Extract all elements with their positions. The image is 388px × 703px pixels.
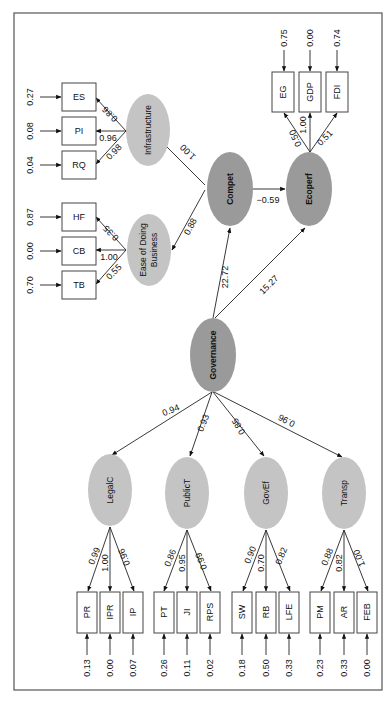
latent-compet: Compet: [207, 152, 253, 226]
latent-label: Compet: [225, 173, 235, 205]
indicator-group-ecoperf: 0.50 1.00 0.51 EG GDP FDI 0.75 0.00 0.74: [272, 29, 348, 152]
indicator-label: CB: [73, 246, 86, 256]
latent-ecoperf: Ecoperf: [286, 152, 332, 226]
coef-compet-ecoperf: −0.59: [257, 195, 280, 205]
coef-gov-transp: 0.96: [277, 412, 297, 429]
latent-label: LegalC: [105, 477, 115, 504]
loading-TB: 0.55: [104, 262, 123, 281]
coef-gov-legalc: 0.94: [161, 402, 181, 418]
loading-RB: 0.70: [256, 554, 266, 572]
loading-JI: 0.95: [177, 554, 187, 572]
loading-IP: 0.96: [116, 547, 132, 567]
latent-publict: PublicT: [165, 457, 209, 529]
indicator-group-legalc: 0.99 1.00 0.96 PR IPR IP 0.13 0.00 0.07: [77, 527, 143, 677]
error-RQ: 0.04: [25, 156, 35, 174]
loading-PI: 0.96: [99, 133, 117, 143]
error-AR: 0.33: [339, 659, 349, 677]
indicator-group-transp: 0.88 0.82 1.00 PM AR FEB 0.23 0.33 0.00: [310, 530, 377, 677]
error-RB: 0.50: [261, 659, 271, 677]
loading-PM: 0.88: [319, 547, 335, 567]
latent-infrastructure: Infrastructure: [126, 94, 170, 166]
error-GDP: 0.00: [305, 29, 315, 47]
coef-gov-compet: 22.72: [220, 266, 230, 289]
error-IP: 0.07: [128, 659, 138, 677]
sem-path-diagram: Governance Compet Ecoperf Infrastructure…: [0, 0, 388, 703]
latent-label-line2: Business: [149, 233, 159, 268]
loading-IPR: 1.00: [100, 554, 110, 572]
error-FEB: 0.00: [362, 659, 372, 677]
loading-LFE: 0.82: [273, 546, 289, 566]
error-PM: 0.23: [315, 659, 325, 677]
latent-label: GovEf: [261, 481, 271, 505]
error-JI: 0.11: [182, 660, 192, 677]
error-FDI: 0.74: [332, 29, 342, 47]
indicator-label: RB: [261, 606, 271, 619]
indicator-label: IP: [128, 608, 138, 617]
latent-label: Ecoperf: [304, 173, 314, 205]
latent-label: PublicT: [182, 479, 192, 507]
indicator-group-infrastructure: 0.86 0.96 0.98 ES PI RQ 0.27 0.08 0.04: [25, 83, 126, 179]
latent-legalc: LegalC: [88, 454, 132, 526]
loading-CB: 1.00: [100, 252, 118, 262]
coef-gov-publict: 0.93: [195, 413, 211, 433]
coef-compet-infra: 1.00: [178, 142, 197, 161]
indicator-label: LFE: [284, 604, 294, 621]
indicator-label: JI: [182, 608, 192, 615]
indicator-label: IPR: [105, 604, 115, 620]
error-PI: 0.08: [25, 122, 35, 140]
indicator-label: PR: [82, 605, 92, 618]
error-HF: 0.87: [25, 208, 35, 226]
loading-GDP: 1.00: [298, 116, 308, 134]
loading-RPS: 0.99: [193, 551, 209, 571]
indicator-label: PI: [75, 126, 84, 136]
error-SW: 0.18: [237, 659, 247, 677]
indicator-label: SW: [237, 604, 247, 619]
coef-gov-ecoperf: 15.27: [257, 273, 280, 296]
latent-governance: Governance: [190, 318, 236, 392]
indicator-label: PM: [315, 605, 325, 619]
loading-RQ: 0.98: [104, 142, 123, 161]
indicator-label: GDP: [305, 82, 315, 102]
indicator-label: PT: [159, 606, 169, 618]
indicator-group-govef: 0.90 0.70 0.82 SW RB LFE 0.18 0.50 0.33: [232, 530, 299, 677]
indicator-label: ES: [73, 92, 85, 102]
indicator-label: FDI: [332, 85, 342, 100]
error-TB: 0.70: [25, 276, 35, 294]
latent-transp: Transp: [322, 457, 366, 529]
indicator-label: RQ: [72, 160, 86, 170]
coef-gov-govef: 0.85: [230, 416, 247, 436]
error-ES: 0.27: [25, 88, 35, 106]
indicator-label: EG: [278, 85, 288, 98]
indicator-label: HF: [73, 212, 85, 222]
coef-compet-ease: 0.88: [182, 217, 199, 237]
latent-label: Infrastructure: [143, 105, 153, 155]
latent-label: Transp: [339, 480, 349, 506]
error-IPR: 0.00: [105, 659, 115, 677]
indicator-group-ease: 0.35 1.00 0.55 HF CB TB 0.87 0.00 0.70: [25, 203, 126, 299]
loading-AR: 0.82: [334, 554, 344, 572]
error-PT: 0.26: [159, 659, 169, 677]
latent-ease-of-doing-business: Ease of Doing Business: [127, 214, 171, 286]
loading-ES: 0.86: [100, 104, 119, 123]
indicator-label: RPS: [205, 603, 215, 622]
latent-label-line1: Ease of Doing: [138, 223, 148, 277]
error-EG: 0.75: [279, 29, 289, 47]
error-PR: 0.13: [82, 659, 92, 677]
latent-label: Governance: [208, 330, 218, 379]
latent-govef: GovEf: [244, 457, 288, 529]
loading-PT: 0.86: [162, 548, 178, 568]
error-RPS: 0.02: [205, 659, 215, 677]
indicator-label: FEB: [362, 603, 372, 621]
loading-FEB: 1.00: [351, 548, 367, 568]
indicator-label: AR: [339, 605, 349, 618]
indicator-label: TB: [73, 280, 85, 290]
indicator-group-publict: 0.86 0.95 0.99 PT JI RPS 0.26 0.11 0.02: [154, 530, 220, 677]
error-LFE: 0.33: [284, 659, 294, 677]
loading-FDI: 0.51: [315, 128, 334, 147]
error-CB: 0.00: [25, 242, 35, 260]
